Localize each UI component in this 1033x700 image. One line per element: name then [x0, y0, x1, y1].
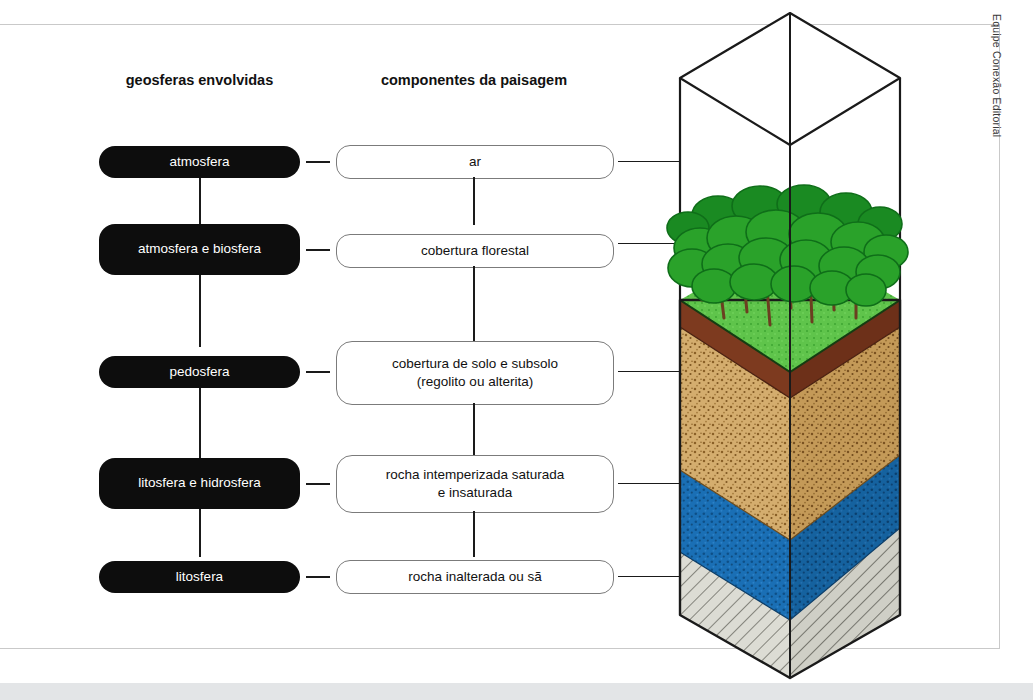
- component-label-line2: e insaturada: [438, 484, 512, 502]
- component-label: cobertura de solo e subsolo: [392, 355, 558, 373]
- component-box-cobertura-florestal[interactable]: cobertura florestal: [336, 234, 614, 268]
- geosphere-label: litosfera: [176, 569, 223, 586]
- component-label: rocha inalterada ou sã: [408, 568, 542, 586]
- component-box-rocha-inalterada[interactable]: rocha inalterada ou sã: [336, 560, 614, 594]
- geosphere-box-litosfera[interactable]: litosfera: [99, 561, 300, 593]
- vertical-connector-right-1: [473, 177, 475, 225]
- geosphere-box-litosfera-hidrosfera[interactable]: litosfera e hidrosfera: [99, 458, 300, 509]
- geosphere-box-atmosfera[interactable]: atmosfera: [99, 146, 300, 178]
- vertical-connector-left-3: [199, 388, 201, 458]
- component-box-rocha-intemperizada[interactable]: rocha intemperizada saturada e insaturad…: [336, 455, 614, 513]
- connector-geo-to-component-5: [306, 576, 330, 578]
- vertical-connector-right-4: [473, 511, 475, 557]
- geosphere-box-pedosfera[interactable]: pedosfera: [99, 356, 300, 388]
- image-credit: Equipe Conexão Editorial: [991, 14, 1003, 134]
- diagram-page: Equipe Conexão Editorial geosferas envol…: [0, 0, 1033, 700]
- connector-geo-to-component-2: [306, 249, 330, 251]
- geosphere-label: atmosfera: [169, 154, 229, 171]
- component-label: rocha intemperizada saturada: [386, 466, 565, 484]
- component-box-ar[interactable]: ar: [336, 145, 614, 179]
- connector-geo-to-component-3: [306, 371, 330, 373]
- geosphere-label: pedosfera: [169, 364, 229, 381]
- column-heading-geospheres: geosferas envolvidas: [99, 72, 300, 88]
- geosphere-label: atmosfera e biosfera: [138, 241, 261, 258]
- connector-geo-to-component-1: [306, 161, 330, 163]
- vertical-connector-left-2: [199, 275, 201, 347]
- vertical-connector-right-2: [473, 266, 475, 341]
- column-heading-components: componentes da paisagem: [336, 72, 612, 88]
- component-label-line2: (regolito ou alterita): [417, 373, 533, 391]
- connector-geo-to-component-4: [306, 483, 330, 485]
- component-label: ar: [469, 153, 481, 171]
- geosphere-box-atmosfera-biosfera[interactable]: atmosfera e biosfera: [99, 224, 300, 275]
- vertical-connector-right-3: [473, 403, 475, 455]
- vertical-connector-left-4: [199, 509, 201, 557]
- vertical-connector-left-1: [199, 178, 201, 224]
- component-box-cobertura-solo-subsolo[interactable]: cobertura de solo e subsolo (regolito ou…: [336, 341, 614, 405]
- geosphere-label: litosfera e hidrosfera: [138, 475, 260, 492]
- component-label: cobertura florestal: [421, 242, 529, 260]
- landscape-block-diagram: [630, 0, 960, 700]
